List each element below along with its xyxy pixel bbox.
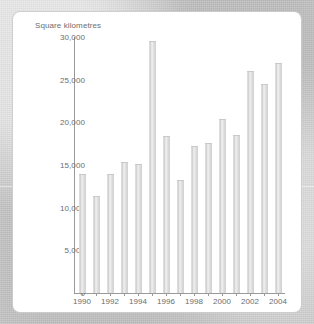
x-axis-tick [82, 293, 83, 296]
x-axis-tick [180, 293, 181, 296]
bar [233, 135, 240, 293]
bar [149, 41, 156, 293]
bar [121, 162, 128, 293]
bar [191, 146, 198, 293]
x-axis-tick-label: 1992 [101, 297, 119, 306]
x-axis-tick [208, 293, 209, 296]
x-axis-tick [166, 293, 167, 296]
x-axis-tick-label: 1996 [157, 297, 175, 306]
x-axis-tick [124, 293, 125, 296]
x-axis-tick [236, 293, 237, 296]
x-axis-tick [264, 293, 265, 296]
x-axis-tick-label: 1998 [185, 297, 203, 306]
x-axis-tick [194, 293, 195, 296]
bar [79, 174, 86, 293]
bar-series [75, 37, 285, 293]
x-axis-tick [222, 293, 223, 296]
bar [93, 196, 100, 293]
bar [177, 180, 184, 293]
x-axis-tick [96, 293, 97, 296]
x-axis-tick-label: 1994 [129, 297, 147, 306]
bar [135, 164, 142, 293]
bar [275, 63, 282, 293]
x-axis-tick [152, 293, 153, 296]
x-axis-tick-label: 2000 [213, 297, 231, 306]
bar [205, 143, 212, 293]
bar-chart-plot-area: 30,00025,00020,00015,00010,0005,0000 199… [13, 12, 301, 312]
x-axis-tick-label: 2002 [241, 297, 259, 306]
bar [261, 84, 268, 293]
x-axis-tick-label: 1990 [73, 297, 91, 306]
bar [219, 119, 226, 293]
x-axis-tick [138, 293, 139, 296]
bar [107, 174, 114, 293]
bar [247, 71, 254, 293]
chart-panel: Square kilometres 30,00025,00020,00015,0… [13, 12, 301, 312]
x-axis-tick [278, 293, 279, 296]
x-axis-tick-label: 2004 [269, 297, 287, 306]
x-axis-tick [250, 293, 251, 296]
x-axis-tick [110, 293, 111, 296]
bar [163, 136, 170, 293]
